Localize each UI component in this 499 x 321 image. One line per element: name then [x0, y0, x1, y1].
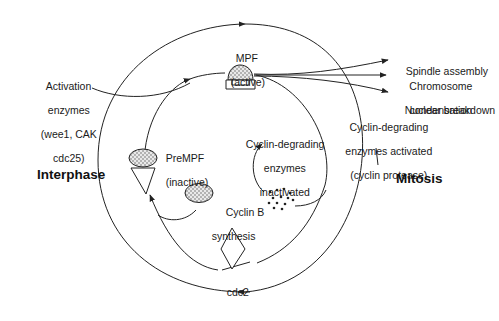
cdc2-label: cdc2 [214, 274, 250, 310]
mpf-state: (active) [231, 76, 265, 88]
prempf-name: PreMPF [166, 152, 205, 164]
activation-line1: Activation [46, 80, 92, 92]
degrading-inactivated-line1: Cyclin-degrading [246, 138, 325, 150]
prempf-complex [129, 149, 157, 194]
mpf-name: MPF [236, 52, 258, 64]
degrading-activated-line1: Cyclin-degrading [349, 121, 428, 133]
prempf-label: PreMPF (inactive) [154, 140, 208, 200]
degrading-inactivated-line3: inactivated [260, 186, 310, 198]
mitosis-text: Mitosis [396, 171, 443, 186]
cyclin-b-line2: synthesis [212, 230, 256, 242]
activation-arrow [92, 83, 190, 96]
activation-line3: (wee1, CAK [41, 128, 97, 140]
prempf-state: (inactive) [166, 176, 209, 188]
cyclin-b-line1: Cyclin B [212, 206, 265, 218]
mpf-output-arrows [254, 60, 388, 92]
degrading-inactivated-line2: enzymes [264, 162, 306, 174]
diagram-canvas: MPF (active) Activation enzymes (wee1, C… [0, 0, 499, 321]
interphase-label: Interphase [22, 152, 105, 197]
output-chromosome-line1: Chromosome [409, 80, 472, 92]
interphase-text: Interphase [37, 167, 105, 182]
cyclin-b-label: Cyclin B synthesis [200, 194, 264, 254]
cyclin-synthesis-arrow [158, 210, 196, 220]
cdc2-text: cdc2 [227, 286, 249, 298]
mpf-label: MPF (active) [219, 40, 263, 100]
activation-line2: enzymes [48, 104, 90, 116]
mitosis-label: Mitosis [381, 156, 443, 201]
